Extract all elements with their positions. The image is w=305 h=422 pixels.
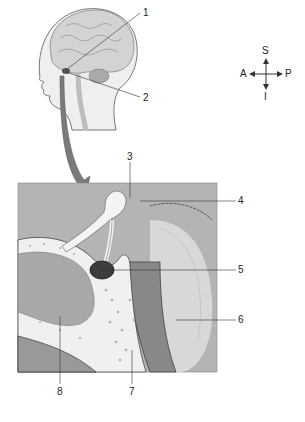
orientation-anterior: A bbox=[240, 69, 247, 79]
illustration bbox=[0, 0, 305, 422]
label-3: 3 bbox=[127, 152, 133, 162]
label-7: 7 bbox=[129, 387, 135, 397]
orientation-compass bbox=[249, 58, 283, 90]
orientation-superior: S bbox=[262, 46, 269, 56]
orientation-inferior: I bbox=[264, 92, 267, 102]
label-8: 8 bbox=[57, 387, 63, 397]
orientation-posterior: P bbox=[285, 69, 292, 79]
enlarged-pituitary-view bbox=[18, 162, 236, 384]
label-2: 2 bbox=[143, 93, 149, 103]
label-5: 5 bbox=[238, 265, 244, 275]
head-illustration bbox=[39, 9, 140, 130]
diagram-stage: 1 2 3 4 5 6 7 8 S I A P bbox=[0, 0, 305, 422]
label-4: 4 bbox=[238, 196, 244, 206]
label-6: 6 bbox=[238, 315, 244, 325]
label-1: 1 bbox=[143, 8, 149, 18]
